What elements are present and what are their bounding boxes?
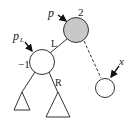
- label-p: p: [47, 6, 54, 20]
- edge-label-r: R: [55, 77, 62, 88]
- balance-p: 2: [78, 6, 84, 18]
- node-x: [96, 79, 115, 98]
- pointer-arrow-pl: [25, 42, 32, 51]
- edge-pl-to-left-subtree: [22, 72, 35, 92]
- edge-p-to-x-dashed: [84, 41, 101, 78]
- left-subtree-triangle: [14, 92, 30, 110]
- edge-label-l: L: [51, 38, 57, 49]
- avl-tree-diagram: p 2 p L −1 L R x: [0, 0, 137, 129]
- node-p: [64, 18, 89, 43]
- label-x: x: [118, 55, 124, 67]
- balance-pl: −1: [18, 58, 30, 70]
- label-pl-subscript: L: [19, 36, 24, 44]
- right-subtree-triangle: [46, 92, 70, 117]
- pointer-arrow-x: [111, 66, 119, 77]
- pointer-arrow-p: [58, 15, 66, 21]
- label-pl: p: [12, 29, 19, 43]
- node-pl: [30, 50, 55, 75]
